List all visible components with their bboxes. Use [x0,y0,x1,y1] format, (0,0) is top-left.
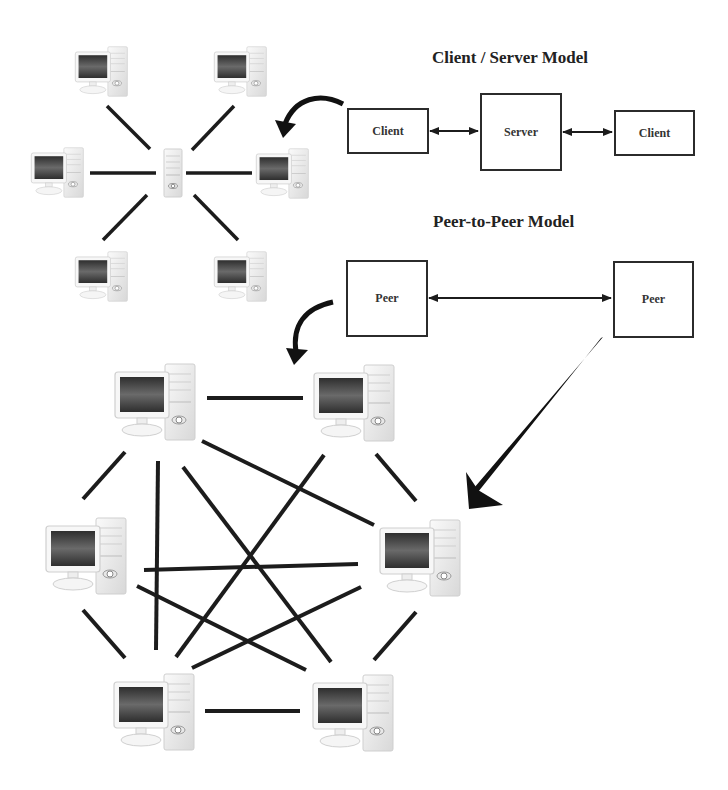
computer-icon [312,363,398,443]
mesh-links [83,398,416,711]
computer-icon [311,673,397,753]
curved-arrow-peer [286,302,333,365]
computer-icon [213,45,269,98]
client-box-left: Client [347,108,429,154]
server-box: Server [480,93,562,171]
client-server-title: Client / Server Model [432,48,588,68]
peer-to-peer-title: Peer-to-Peer Model [433,212,574,232]
computer-icon [44,516,130,596]
computer-icon [378,518,464,598]
client-label: Client [372,124,403,139]
peer-label: Peer [375,291,398,306]
computer-icon [74,250,130,303]
server-label: Server [504,125,538,140]
computer-icon [213,250,269,303]
long-arrow-peer [466,337,603,509]
client-label: Client [639,126,670,141]
server-tower-icon [163,148,183,198]
computer-icon [255,147,311,200]
peer-box-left: Peer [346,260,428,337]
computer-icon [74,45,130,98]
computer-icon [112,672,198,752]
peer-box-right: Peer [613,261,694,338]
client-box-right: Client [614,110,695,156]
computer-icon [113,362,199,442]
peer-label: Peer [642,292,665,307]
curved-arrow-client [275,98,343,138]
computer-icon [30,146,86,199]
